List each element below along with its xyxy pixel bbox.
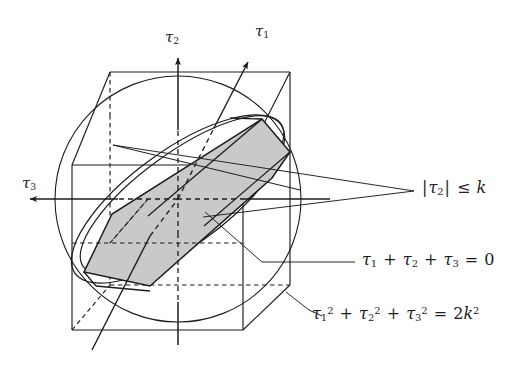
hexagon-section: [84, 114, 290, 286]
leader-deviatoric: [205, 212, 262, 262]
annotation-deviatoric-plane: τ1 + τ2 + τ3 = 0: [362, 252, 494, 268]
axis-label-tau2-index: 2: [173, 35, 179, 46]
axis-label-tau1: τ1: [255, 24, 269, 39]
axis-label-tau1-index: 1: [263, 29, 269, 40]
axis-label-tau3: τ3: [22, 176, 36, 191]
leader-sphere: [286, 292, 309, 310]
axis-label-tau2: τ2: [165, 30, 179, 45]
annotation-sphere-equation: τ12 + τ22 + τ32 = 2k2: [312, 306, 479, 322]
axis-label-tau3-index: 3: [30, 181, 36, 192]
annotation-bound-tau2: |τ2| ≤ k: [421, 180, 486, 196]
figure-root: τ2 τ1 τ3 |τ2| ≤ k τ1 + τ2 + τ3 = 0 τ12 +…: [0, 0, 525, 380]
